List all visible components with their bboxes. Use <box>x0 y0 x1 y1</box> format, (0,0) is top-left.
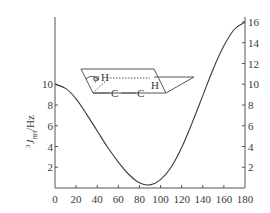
y-tick-label-right: 14 <box>248 37 260 49</box>
x-tick-label: 20 <box>71 193 83 205</box>
inset-labels: φ H H C C <box>93 71 159 99</box>
inset-right-plane <box>154 77 194 93</box>
svg-text:3JHH/Hz: 3JHH/Hz <box>24 115 38 148</box>
inset-h-right: H <box>151 79 159 91</box>
x-tick-label: 160 <box>216 193 233 205</box>
x-tick-label: 100 <box>152 193 169 205</box>
axes <box>55 17 245 188</box>
y-tick-label-left: 6 <box>48 120 54 132</box>
x-tick-label: 80 <box>134 193 146 205</box>
y-tick-label-right: 8 <box>248 99 254 111</box>
y-tick-label-left: 8 <box>48 99 54 111</box>
x-tick-label: 120 <box>173 193 190 205</box>
x-tick-label: 180 <box>237 193 254 205</box>
karplus-chart: 020406080100120140160180 246810 24681012… <box>0 0 270 213</box>
y-tick-label-right: 12 <box>248 58 259 70</box>
x-tick-label: 40 <box>92 193 104 205</box>
y-tick-label-right: 2 <box>248 161 254 173</box>
inset-h-left: H <box>101 71 109 83</box>
y-tick-label-right: 6 <box>248 120 254 132</box>
x-tick-label: 60 <box>113 193 125 205</box>
y-ticks-left: 246810 <box>42 78 58 173</box>
x-tick-label: 140 <box>195 193 212 205</box>
inset-phi: φ <box>93 71 99 83</box>
inset-c-left: C <box>111 87 118 99</box>
x-tick-label: 0 <box>52 193 58 205</box>
inset-c-right: C <box>137 87 144 99</box>
y-tick-label-left: 4 <box>48 141 54 153</box>
y-tick-label-left: 10 <box>42 78 54 90</box>
y-tick-label-right: 16 <box>248 16 260 28</box>
y-tick-label-left: 2 <box>48 161 54 173</box>
y-tick-label-right: 10 <box>248 78 260 90</box>
y-axis-label: 3JHH/Hz <box>24 115 38 148</box>
ylabel-unit: /Hz <box>24 115 36 131</box>
karplus-curve <box>55 22 245 185</box>
y-tick-label-right: 4 <box>248 141 254 153</box>
